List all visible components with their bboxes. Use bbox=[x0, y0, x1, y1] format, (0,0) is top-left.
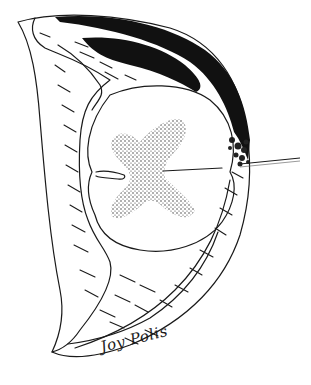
gray-matter bbox=[111, 119, 195, 218]
inner-sheath-line-2 bbox=[58, 45, 102, 110]
spinal-cord-illustration: Joy Polis bbox=[0, 0, 311, 385]
anterior-fissure bbox=[96, 171, 125, 179]
posterior-septum bbox=[163, 168, 222, 171]
inner-sheath-line bbox=[32, 18, 110, 352]
sheath-right-inner bbox=[75, 180, 230, 348]
